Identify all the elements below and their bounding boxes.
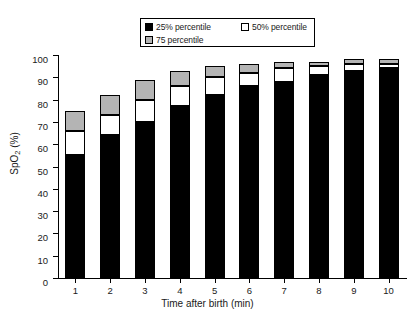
bar-segment-p25 bbox=[205, 95, 225, 278]
bar-group bbox=[100, 55, 120, 278]
x-tick-label: 8 bbox=[307, 285, 331, 296]
x-tick-label: 1 bbox=[63, 285, 87, 296]
x-tick-label: 9 bbox=[342, 285, 366, 296]
legend-label-p50: 50% percentile bbox=[252, 23, 307, 32]
x-tick-label: 3 bbox=[133, 285, 157, 296]
legend-label-p75: 75 percentile bbox=[156, 36, 203, 45]
legend-row-top: 25% percentile 50% percentile bbox=[145, 21, 310, 33]
chart-figure: 25% percentile 50% percentile 75 percent… bbox=[0, 0, 415, 319]
bar-group bbox=[170, 55, 190, 278]
bar-segment-p75 bbox=[100, 95, 120, 115]
bar-segment-p25 bbox=[379, 68, 399, 278]
bar-segment-p50 bbox=[65, 131, 85, 156]
bar-group bbox=[309, 55, 329, 278]
bar-segment-p25 bbox=[239, 86, 259, 278]
x-tick-mark bbox=[319, 279, 320, 283]
bar-group bbox=[379, 55, 399, 278]
y-axis-title: SpO2 (%) bbox=[9, 114, 20, 194]
legend-label-p25: 25% percentile bbox=[156, 23, 211, 32]
bar-segment-p75 bbox=[274, 62, 294, 69]
bar-segment-p50 bbox=[239, 73, 259, 86]
x-tick-mark bbox=[389, 279, 390, 283]
bar-segment-p75 bbox=[135, 80, 155, 100]
bar-group bbox=[205, 55, 225, 278]
bar-segment-p50 bbox=[274, 68, 294, 81]
x-tick-mark bbox=[354, 279, 355, 283]
bar-segment-p50 bbox=[344, 64, 364, 71]
y-tick-mark bbox=[53, 278, 58, 279]
bar-segment-p25 bbox=[309, 75, 329, 278]
y-tick-label: 20 bbox=[0, 227, 48, 245]
y-tick-label: 90 bbox=[0, 71, 48, 89]
x-tick-mark bbox=[180, 279, 181, 283]
y-tick-label: 70 bbox=[0, 116, 48, 134]
y-tick-label: 60 bbox=[0, 138, 48, 156]
bar-segment-p25 bbox=[100, 135, 120, 278]
y-axis-title-pre: SpO bbox=[9, 155, 20, 175]
bar-group bbox=[65, 55, 85, 278]
x-tick-label: 5 bbox=[203, 285, 227, 296]
bar-segment-p50 bbox=[170, 86, 190, 106]
y-tick-label: 80 bbox=[0, 94, 48, 112]
x-tick-mark bbox=[75, 279, 76, 283]
bar-segment-p25 bbox=[65, 155, 85, 278]
bar-group bbox=[135, 55, 155, 278]
x-tick-label: 6 bbox=[237, 285, 261, 296]
legend-swatch-p50-icon bbox=[241, 23, 249, 31]
bar-segment-p75 bbox=[170, 71, 190, 87]
legend-row-bottom: 75 percentile bbox=[145, 34, 310, 46]
plot-area bbox=[58, 55, 406, 278]
x-tick-mark bbox=[249, 279, 250, 283]
bar-segment-p25 bbox=[135, 122, 155, 278]
legend-swatch-p25-icon bbox=[145, 23, 153, 31]
bar-segment-p25 bbox=[344, 71, 364, 278]
legend-entry-p75: 75 percentile bbox=[145, 36, 241, 45]
bar-segment-p50 bbox=[309, 66, 329, 75]
bar-segment-p75 bbox=[65, 111, 85, 131]
bar-group bbox=[274, 55, 294, 278]
y-tick-label: 50 bbox=[0, 161, 48, 179]
x-tick-mark bbox=[215, 279, 216, 283]
legend-swatch-p75-icon bbox=[145, 36, 153, 44]
bar-segment-p75 bbox=[239, 64, 259, 73]
y-tick-label: 100 bbox=[0, 49, 48, 67]
x-tick-label: 4 bbox=[168, 285, 192, 296]
y-tick-label: 40 bbox=[0, 183, 48, 201]
x-tick-label: 7 bbox=[272, 285, 296, 296]
bar-segment-p50 bbox=[135, 100, 155, 122]
y-axis-title-post: (%) bbox=[9, 132, 20, 150]
bar-segment-p50 bbox=[100, 115, 120, 135]
y-axis-title-sub: 2 bbox=[13, 151, 22, 155]
x-tick-mark bbox=[145, 279, 146, 283]
bar-segment-p25 bbox=[274, 82, 294, 278]
legend-entry-p50: 50% percentile bbox=[241, 23, 307, 32]
y-tick-label: 10 bbox=[0, 250, 48, 268]
x-tick-label: 2 bbox=[98, 285, 122, 296]
x-tick-mark bbox=[110, 279, 111, 283]
bar-segment-p75 bbox=[205, 66, 225, 77]
x-tick-label: 10 bbox=[377, 285, 401, 296]
chart-legend: 25% percentile 50% percentile 75 percent… bbox=[140, 18, 315, 47]
x-axis-title: Time after birth (min) bbox=[0, 298, 415, 309]
y-tick-label: 0 bbox=[0, 272, 48, 290]
bar-group bbox=[239, 55, 259, 278]
bar-group bbox=[344, 55, 364, 278]
bar-segment-p50 bbox=[205, 77, 225, 95]
x-tick-mark bbox=[284, 279, 285, 283]
bar-segment-p25 bbox=[170, 106, 190, 278]
legend-entry-p25: 25% percentile bbox=[145, 23, 241, 32]
y-tick-label: 30 bbox=[0, 205, 48, 223]
